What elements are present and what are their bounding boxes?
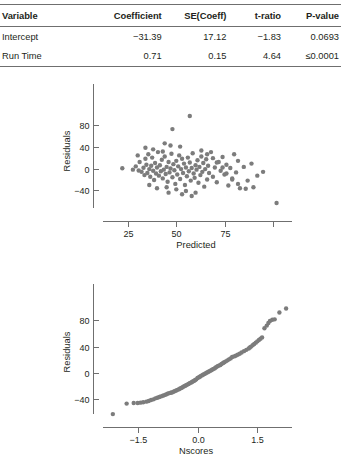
data-point [188,114,192,118]
data-point [147,183,151,187]
table-body: Intercept −31.39 17.12 −1.83 0.0693 Run … [0,27,341,67]
data-point [170,127,174,131]
y-tick-label: −40 [74,186,89,196]
cell-p-value: ≤0.0001 [283,46,341,67]
data-point [277,310,281,314]
data-point [169,152,173,156]
y-tick-label: 80 [79,316,89,326]
data-point [199,154,203,158]
data-point [132,401,136,405]
data-point [274,201,278,205]
y-axis-title: Residuals [62,331,72,372]
data-point [205,177,209,181]
x-tick-label: 75 [220,229,230,239]
data-point [242,165,246,169]
data-point [211,156,215,160]
data-point [158,163,162,167]
residuals-vs-predicted-svg: 80400−40 255075 Residuals Predicted [0,76,341,256]
data-point [215,180,219,184]
data-point [164,165,168,169]
data-points [120,114,279,206]
data-point [189,178,193,182]
data-point [145,171,149,175]
column-header-se-coeff: SE(Coeff) [164,5,229,27]
y-tick-label: 40 [79,143,89,153]
data-point [255,173,259,177]
table-header: Variable Coefficient SE(Coeff) t-ratio P… [0,5,341,27]
data-point [173,182,177,186]
data-point [244,187,248,191]
data-point [161,149,165,153]
data-point [272,317,276,321]
data-point [134,164,138,168]
data-point [226,183,230,187]
cell-coefficient: 0.71 [89,46,164,67]
data-point [184,165,188,169]
data-point [171,162,175,166]
data-point [168,166,172,170]
data-point [220,155,224,159]
y-tick-label: −40 [74,395,89,405]
cell-coefficient: −31.39 [89,27,164,47]
data-point [245,178,249,182]
data-point [180,156,184,160]
column-header-coefficient: Coefficient [89,5,164,27]
data-point [163,172,167,176]
data-point [167,170,171,174]
data-point [234,170,238,174]
data-point [209,150,213,154]
data-point [215,160,219,164]
data-point [191,171,195,175]
data-point [175,172,179,176]
data-point [192,176,196,180]
x-axis-title: Nscores [179,446,213,456]
data-point [190,166,194,170]
data-point [211,175,215,179]
x-axis-title: Predicted [176,240,215,250]
data-point [178,177,182,181]
data-point [190,151,194,155]
data-point [164,185,168,189]
data-point [150,155,154,159]
data-point [165,179,169,183]
data-point [148,175,152,179]
data-point [143,146,147,150]
data-point [207,171,211,175]
data-point [204,157,208,161]
data-point [172,168,176,172]
x-axis-ticks: 255075 [123,222,273,239]
table-header-row: Variable Coefficient SE(Coeff) t-ratio P… [0,5,341,27]
cell-se-coeff: 0.15 [164,46,229,67]
data-point [139,170,143,174]
data-point [163,141,167,145]
data-point [182,161,186,165]
coefficients-table: Variable Coefficient SE(Coeff) t-ratio P… [0,4,341,67]
data-point [155,186,159,190]
y-axis-title: Residuals [62,130,72,171]
data-point [185,174,189,178]
data-point [187,169,191,173]
data-point [120,166,124,170]
data-point [174,159,178,163]
data-point [202,184,206,188]
normal-probability-svg: 80400−40 −1.50.01.5 Residuals Nscores [0,262,341,472]
cell-variable: Run Time [0,46,89,67]
data-point [260,335,264,339]
data-point [168,143,172,147]
data-point [143,156,147,160]
cell-t-ratio: 4.64 [228,46,283,67]
y-tick-label: 0 [84,369,89,379]
normal-probability-chart: 80400−40 −1.50.01.5 Residuals Nscores [0,262,341,472]
data-point [161,176,165,180]
data-point [213,165,217,169]
data-point [179,167,183,171]
column-header-p-value: P-value [283,5,341,27]
x-tick-label: 1.5 [251,435,264,445]
table-row: Run Time 0.71 0.15 4.64 ≤0.0001 [0,46,341,67]
data-point [224,171,228,175]
cell-variable: Intercept [0,27,89,47]
data-point [203,167,207,171]
data-point [181,171,185,175]
cell-t-ratio: −1.83 [228,27,283,47]
data-point [251,185,255,189]
